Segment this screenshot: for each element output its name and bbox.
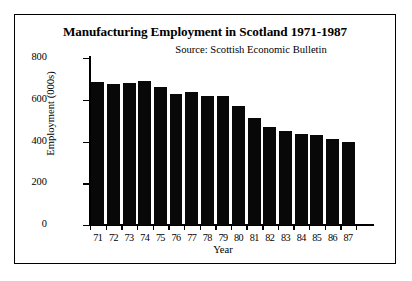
y-tick-label: 800	[0, 51, 47, 62]
bar	[248, 118, 261, 226]
x-tick-mark	[246, 225, 247, 230]
x-tick-label: 86	[325, 232, 341, 243]
bar	[123, 83, 136, 225]
bar	[185, 92, 198, 225]
x-tick-label: 78	[199, 232, 215, 243]
x-tick-mark	[153, 225, 154, 230]
x-tick-mark	[90, 225, 91, 230]
x-tick-mark	[215, 225, 216, 230]
chart-title: Manufacturing Employment in Scotland 197…	[15, 24, 395, 40]
bar	[295, 134, 308, 225]
y-tick-label: 400	[0, 135, 47, 146]
x-tick-label: 81	[246, 232, 262, 243]
x-tick-label: 73	[121, 232, 137, 243]
x-tick-mark	[200, 225, 201, 230]
x-axis-title: Year	[90, 244, 356, 255]
y-axis-title: Employment (000s)	[45, 49, 56, 179]
y-tick-mark	[83, 142, 90, 143]
y-tick-mark	[83, 225, 90, 226]
y-tick-label: 600	[0, 93, 47, 104]
x-tick-mark	[293, 225, 294, 230]
bar-series	[90, 58, 356, 225]
x-tick-mark	[309, 225, 310, 230]
y-tick-label: 200	[0, 176, 47, 187]
x-tick-label: 82	[262, 232, 278, 243]
bar	[170, 94, 183, 226]
x-tick-labels: 7172737475767778798081828384858687	[90, 232, 356, 243]
plot-area	[90, 58, 356, 225]
x-tick-mark	[325, 225, 326, 230]
y-tick-label: 0	[0, 218, 47, 229]
x-tick-mark	[340, 225, 341, 230]
x-tick-label: 87	[340, 232, 356, 243]
x-tick-mark	[137, 225, 138, 230]
x-tick-mark	[121, 225, 122, 230]
bar	[138, 81, 151, 225]
bar	[342, 142, 355, 226]
x-tick-mark	[184, 225, 185, 230]
bar	[232, 106, 245, 225]
x-tick-label: 71	[90, 232, 106, 243]
bar	[326, 139, 339, 225]
x-tick-mark	[168, 225, 169, 230]
bar	[91, 82, 104, 225]
x-tick-label: 75	[153, 232, 169, 243]
x-tick-mark	[106, 225, 107, 230]
y-tick-mark	[83, 183, 90, 184]
x-tick-mark	[356, 225, 357, 230]
x-tick-label: 84	[293, 232, 309, 243]
x-tick-label: 80	[231, 232, 247, 243]
x-tick-label: 79	[215, 232, 231, 243]
y-tick-mark	[83, 58, 90, 59]
x-tick-label: 76	[168, 232, 184, 243]
x-tick-label: 72	[106, 232, 122, 243]
source-note: Source: Scottish Economic Bulletin	[15, 44, 395, 55]
bar	[279, 131, 292, 225]
bar	[263, 127, 276, 225]
x-tick-label: 83	[278, 232, 294, 243]
x-tick-label: 74	[137, 232, 153, 243]
y-tick-mark	[83, 100, 90, 101]
x-tick-mark	[278, 225, 279, 230]
bar	[107, 84, 120, 225]
bar	[201, 96, 214, 225]
chart-figure: Manufacturing Employment in Scotland 197…	[14, 14, 396, 264]
x-tick-label: 77	[184, 232, 200, 243]
bar	[217, 96, 230, 225]
bar	[310, 135, 323, 225]
x-tick-mark	[262, 225, 263, 230]
x-tick-mark	[231, 225, 232, 230]
x-tick-label: 85	[309, 232, 325, 243]
bar	[154, 87, 167, 225]
